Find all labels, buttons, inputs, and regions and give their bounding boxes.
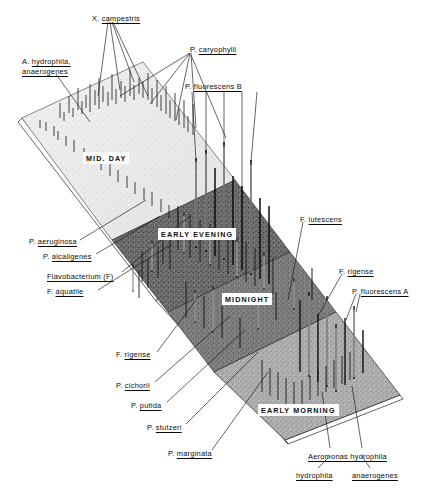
genus-abbrev: A. [22, 57, 29, 66]
genus-abbrev: X. [92, 14, 99, 23]
species-name: rigense [348, 267, 374, 276]
species-name: fluorescens B [194, 82, 242, 91]
species-name: marginata [177, 449, 212, 458]
annotation-f-rigense-right: F. rigense [339, 267, 374, 276]
annotation-x-campestris: X. campestris [92, 14, 140, 23]
genus-abbrev: P. [43, 252, 50, 261]
species-name: Aeromonas hydrophila [308, 452, 387, 461]
species-name: hydrophila, [32, 57, 71, 66]
genus-abbrev: F. [300, 215, 306, 224]
species-name: campestris [102, 14, 140, 23]
genus-abbrev: F. [339, 267, 345, 276]
species-name: rigense [125, 350, 151, 359]
annotation-p-fluorescens-a: P. fluorescens A [352, 287, 408, 296]
panel-label-early-evening: EARLY EVENING [158, 228, 236, 240]
genus-abbrev: F. [47, 287, 53, 296]
species-name: hydrophila [296, 471, 333, 480]
genus-abbrev: F. [116, 350, 122, 359]
species-name: lutescens [309, 215, 342, 224]
species-name-2: anaerogenes [22, 67, 68, 76]
annotation-p-stutzeri: P. stutzeri [147, 423, 182, 432]
panel-label-mid-day: MID. DAY [83, 152, 129, 164]
genus-abbrev: P. [185, 82, 192, 91]
genus-abbrev: P. [147, 423, 154, 432]
annotation-p-caryophylli: P. caryophylli [190, 45, 237, 54]
genus-abbrev: P. [168, 449, 175, 458]
species-name: cichorii [125, 381, 150, 390]
genus-abbrev: P. [131, 401, 138, 410]
species-name: fluorescens A [361, 287, 409, 296]
annotation-p-fluorescens-b: P. fluorescens B [185, 82, 242, 91]
annotation-f-rigense-left: F. rigense [116, 350, 151, 359]
annotation-p-cichorii: P. cichorii [116, 381, 150, 390]
species-name: alcaligenes [52, 252, 92, 261]
species-name: putida [140, 401, 162, 410]
annotation-flavobacterium: Flavobacterium (F) [47, 272, 114, 281]
annotation-anaerogenes: anaerogenes [352, 471, 398, 480]
species-name: aeruginosa [38, 237, 77, 246]
panel-label-early-morning: EARLY MORNING [258, 404, 339, 416]
species-name: aquatile [56, 287, 84, 296]
annotation-f-aquatile: F. aquatile [47, 287, 83, 296]
annotation-hydrophila: hydrophila [296, 471, 333, 480]
annotation-p-alcaligenes: P. alcaligenes [43, 252, 92, 261]
genus-abbrev: P. [116, 381, 123, 390]
annotation-p-putida: P. putida [131, 401, 161, 410]
annotation-a-hydrophila-anaerogenes: A. hydrophila, anaerogenes [22, 57, 71, 76]
species-name: stutzeri [156, 423, 182, 432]
genus-abbrev: P. [352, 287, 359, 296]
species-name: anaerogenes [352, 471, 398, 480]
species-name: caryophylli [199, 45, 237, 54]
annotation-p-marginata: P. marginata [168, 449, 212, 458]
species-name: Flavobacterium (F) [47, 272, 114, 281]
annotation-f-lutescens: F. lutescens [300, 215, 342, 224]
genus-abbrev: P. [190, 45, 197, 54]
annotation-p-aeruginosa: P. aeruginosa [29, 237, 77, 246]
panel-label-midnight: MIDNIGHT [222, 293, 272, 305]
annotation-aeromonas-hydrophila: Aeromonas hydrophila [308, 452, 387, 461]
genus-abbrev: P. [29, 237, 36, 246]
